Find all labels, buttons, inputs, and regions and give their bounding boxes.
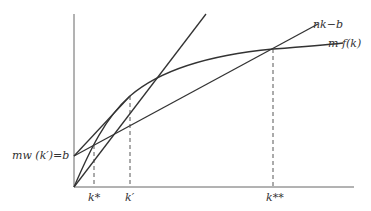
economics-diagram: nk−b m f(k) mw (k′)=b k* k′ k** (0, 0, 371, 211)
label-mf-k: m f(k) (328, 38, 361, 49)
label-k-prime: k′ (125, 192, 134, 203)
mw-line (74, 96, 130, 156)
label-k-double-star: k** (266, 192, 284, 203)
label-intercept-b: mw (k′)=b (12, 150, 69, 161)
nk-minus-b-line (74, 24, 318, 156)
diagram-canvas (0, 0, 371, 211)
label-nk-minus-b: nk−b (313, 19, 343, 30)
mf-k-curve (74, 43, 343, 187)
label-k-star: k* (88, 192, 100, 203)
